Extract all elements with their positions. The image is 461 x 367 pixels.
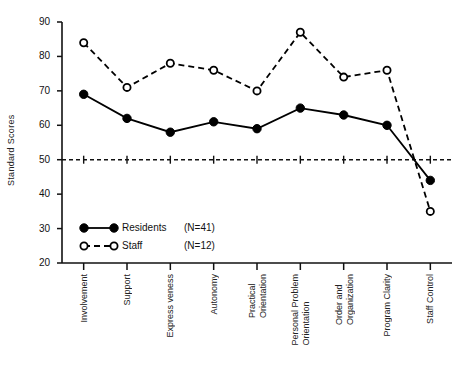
y-axis-tick-label: 80 [26, 51, 50, 61]
x-axis-tick-label-line: Practical [247, 284, 257, 319]
data-point-residents [383, 121, 391, 129]
y-axis-tick-label: 90 [26, 17, 50, 27]
data-point-staff [167, 60, 174, 67]
data-point-residents [166, 128, 174, 136]
x-axis-tick-label: Personal ProblemOrientation [290, 274, 312, 346]
legend-count-staff: (N=12) [184, 240, 215, 251]
legend-marker-residents [80, 224, 88, 232]
data-point-residents [80, 90, 88, 98]
legend-marker-staff [80, 242, 87, 249]
y-axis-tick-label: 60 [26, 120, 50, 130]
legend-count-residents: (N=41) [184, 222, 215, 233]
x-axis-tick-label-line: Personal Problem [290, 274, 300, 346]
legend-label-staff: Staff [122, 240, 142, 251]
y-axis-tick-label: 30 [26, 224, 50, 234]
data-point-residents [426, 176, 434, 184]
x-axis-tick-label: Autonomy [209, 274, 219, 315]
data-point-staff [123, 84, 130, 91]
y-axis-tick-label: 40 [26, 189, 50, 199]
data-point-staff [253, 87, 260, 94]
y-axis-title: Standard Scores [6, 90, 22, 210]
y-axis-tick-label: 20 [26, 258, 50, 268]
legend-marker-residents [110, 224, 118, 232]
x-axis-tick-label: Staff Control [425, 274, 435, 324]
chart-figure: Standard Scores 9080706050403020Involvem… [0, 0, 461, 367]
x-axis-tick-label-line: Autonomy [209, 274, 219, 315]
x-axis-tick-label: Involvement [79, 274, 89, 323]
x-axis-tick-label: Express veness [165, 274, 175, 338]
data-point-staff [297, 29, 304, 36]
data-point-residents [296, 104, 304, 112]
data-point-staff [80, 39, 87, 46]
x-axis-tick-label: Order andOrganization [334, 274, 356, 325]
series-line-residents [84, 94, 431, 180]
legend-label-residents: Residents [122, 222, 166, 233]
x-axis-tick-label-line: Support [122, 274, 132, 306]
x-axis-tick-label-line: Program Clarity [382, 274, 392, 337]
legend-marker-staff [110, 242, 117, 249]
x-axis-tick-label-line: Orientation [258, 274, 268, 318]
x-axis-tick-label-line: Staff Control [425, 274, 435, 324]
data-point-residents [253, 125, 261, 133]
data-point-residents [340, 111, 348, 119]
data-point-staff [427, 208, 434, 215]
y-axis-tick-label: 70 [26, 86, 50, 96]
data-point-residents [123, 114, 131, 122]
x-axis-tick-label-line: Organization [345, 274, 355, 325]
data-point-residents [210, 118, 218, 126]
x-axis-tick-label-line: Orientation [301, 302, 311, 346]
x-axis-tick-label: PracticalOrientation [247, 274, 269, 318]
x-axis-tick-label: Support [122, 274, 132, 306]
data-point-staff [210, 67, 217, 74]
data-point-staff [383, 67, 390, 74]
x-axis-tick-label-line: Order and [334, 285, 344, 326]
y-axis-tick-label: 50 [26, 155, 50, 165]
data-point-staff [340, 74, 347, 81]
x-axis-tick-label: Program Clarity [382, 274, 392, 337]
x-axis-tick-label-line: Express veness [165, 274, 175, 338]
x-axis-tick-label-line: Involvement [79, 274, 89, 323]
